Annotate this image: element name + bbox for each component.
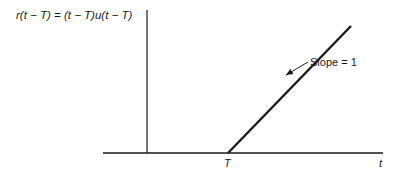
ramp-function-diagram: r(t − T) = (t − T)u(t − T) Slope = 1 T t <box>0 0 401 174</box>
slope-label: Slope = 1 <box>310 56 357 68</box>
diagram-canvas: r(t − T) = (t − T)u(t − T) Slope = 1 T t <box>0 0 401 174</box>
x-axis-label-t: t <box>379 157 383 169</box>
function-label: r(t − T) = (t − T)u(t − T) <box>16 9 132 21</box>
shift-label-T: T <box>224 157 232 169</box>
ramp-line <box>228 26 351 153</box>
